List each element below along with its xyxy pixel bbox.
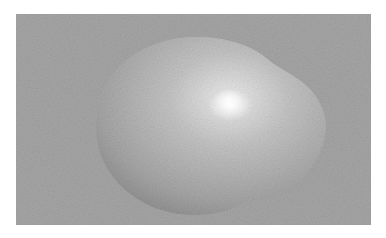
render-backdrop: [16, 14, 371, 225]
blob-render: [16, 14, 371, 225]
